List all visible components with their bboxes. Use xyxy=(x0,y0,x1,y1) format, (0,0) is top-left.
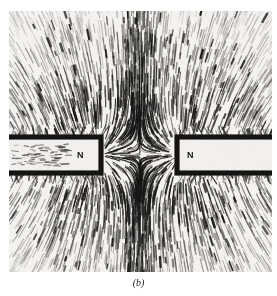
figure-panel: N N (b) xyxy=(0,0,277,296)
figure-caption: (b) xyxy=(0,277,277,288)
iron-filings-field-svg xyxy=(9,11,272,272)
magnetic-field-photograph xyxy=(9,11,272,272)
left-magnet-pole-label: N xyxy=(77,151,84,160)
right-magnet-pole-label: N xyxy=(187,151,194,160)
